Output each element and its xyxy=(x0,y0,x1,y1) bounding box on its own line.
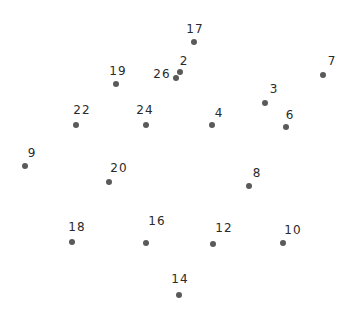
dot-label-19: 19 xyxy=(109,65,126,77)
dot-label-8: 8 xyxy=(253,167,262,179)
dot-4 xyxy=(209,122,215,128)
dot-10 xyxy=(280,240,286,246)
dot-17 xyxy=(191,39,197,45)
dot-label-4: 4 xyxy=(215,107,224,119)
dot-label-22: 22 xyxy=(73,104,90,116)
dot-label-16: 16 xyxy=(148,215,165,227)
dot-label-26: 26 xyxy=(153,68,170,80)
dot-label-10: 10 xyxy=(284,224,301,236)
dot-12 xyxy=(210,241,216,247)
dot-label-17: 17 xyxy=(186,23,203,35)
dot-label-7: 7 xyxy=(328,55,337,67)
dot-26 xyxy=(173,75,179,81)
dot-label-14: 14 xyxy=(171,273,188,285)
dot-label-2: 2 xyxy=(180,55,189,67)
dot-14 xyxy=(176,292,182,298)
dot-2 xyxy=(177,69,183,75)
dot-label-3: 3 xyxy=(270,83,279,95)
dot-puzzle-canvas: 17226197322244692081816121014 xyxy=(0,0,361,318)
dot-label-6: 6 xyxy=(286,109,295,121)
dot-label-12: 12 xyxy=(215,222,232,234)
dot-20 xyxy=(106,179,112,185)
dot-16 xyxy=(143,240,149,246)
dot-6 xyxy=(283,124,289,130)
dot-label-20: 20 xyxy=(110,162,127,174)
dot-label-9: 9 xyxy=(28,147,37,159)
dot-18 xyxy=(69,239,75,245)
dot-8 xyxy=(246,183,252,189)
dot-label-18: 18 xyxy=(68,221,85,233)
dot-3 xyxy=(262,100,268,106)
dot-label-24: 24 xyxy=(136,104,153,116)
dot-9 xyxy=(22,163,28,169)
dot-24 xyxy=(143,122,149,128)
dot-7 xyxy=(320,72,326,78)
dot-22 xyxy=(73,122,79,128)
dot-19 xyxy=(113,81,119,87)
